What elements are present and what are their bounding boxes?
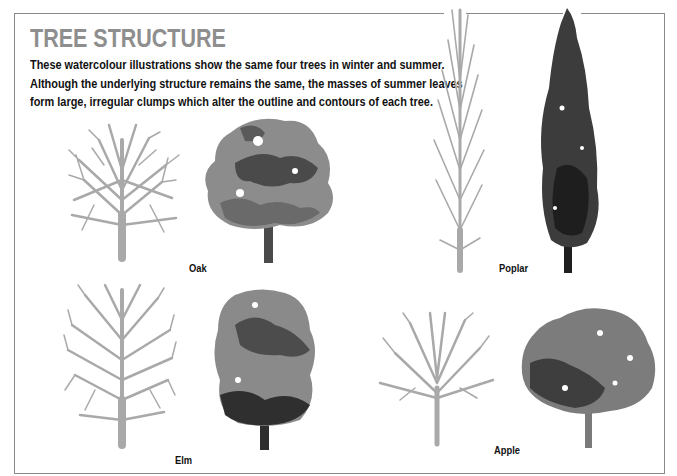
tree-label-oak: Oak <box>189 262 207 274</box>
bare-oak-tree-icon <box>64 120 184 260</box>
bare-apple-tree-icon <box>375 308 495 446</box>
tree-label-apple: Apple <box>494 444 520 456</box>
tree-label-elm: Elm <box>175 454 192 466</box>
bare-elm-tree-icon <box>60 280 180 445</box>
page-title: TREE STRUCTURE <box>30 24 226 53</box>
leafy-elm-tree-icon <box>210 285 320 450</box>
tree-label-poplar: Poplar <box>499 262 528 274</box>
leafy-apple-tree-icon <box>520 303 660 448</box>
leafy-oak-tree-icon <box>200 113 340 263</box>
leafy-poplar-tree-icon <box>537 8 607 273</box>
bare-poplar-tree-icon <box>428 0 488 272</box>
